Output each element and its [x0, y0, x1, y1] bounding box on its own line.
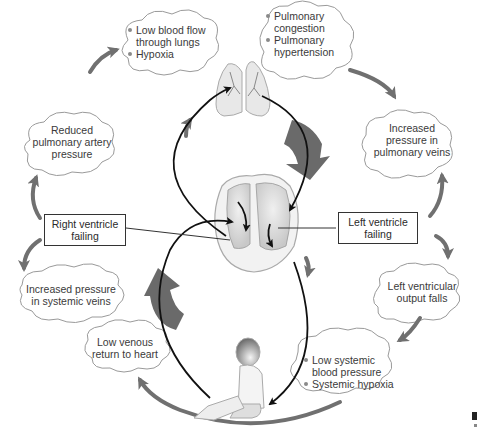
cloud-low-venous-return-text: Low venous return to heart [82, 336, 168, 360]
text-line: Increased pressure [16, 283, 126, 295]
arrow-heart-down [306, 258, 309, 274]
cloud-lungs-low-flow-text: Low blood flowthrough lungs Hypoxia [128, 24, 228, 60]
text-line: output falls [380, 292, 464, 304]
big-arrow-left [144, 268, 184, 330]
arrow-to-reduced-pa [33, 178, 40, 218]
text-line: in systemic veins [16, 295, 126, 307]
arrow-lv-to-output [436, 236, 448, 256]
text-line: pulmonary artery [24, 136, 120, 148]
arrow-lv-to-pv [430, 176, 442, 216]
corner-mark [472, 412, 477, 420]
text-line: Left ventricle [348, 216, 408, 228]
text-line: pressure in [362, 134, 462, 146]
arrow-rv-to-sv [24, 240, 40, 268]
text-line: Increased [362, 122, 462, 134]
cloud-reduced-pa-pressure-text: Reduced pulmonary artery pressure [24, 124, 120, 160]
text-line: Right ventricle [52, 218, 119, 230]
cloud-increased-pv-pressure-text: Increased pressure in pulmonary veins [362, 122, 462, 158]
text-line: failing [348, 228, 408, 240]
text-line: failing [52, 230, 119, 242]
arrow-to-lungs-cloud [90, 50, 116, 72]
child-illustration [194, 338, 264, 420]
arrow-congestion-to-pv [350, 70, 394, 96]
text-line: pulmonary veins [362, 146, 462, 158]
left-ventricle-failing-box: Left ventricle failing [338, 212, 418, 244]
cloud-increased-sv-pressure-text: Increased pressure in systemic veins [16, 283, 126, 307]
text-line: return to heart [82, 348, 168, 360]
cloud-low-systemic-bp-text: Low systemicblood pressure Systemic hypo… [304, 354, 404, 390]
text-line: Left ventricular [380, 280, 464, 292]
text-line: Reduced [24, 124, 120, 136]
lungs-illustration [216, 62, 270, 116]
cloud-pulmonary-congestion-text: Pulmonarycongestion Pulmonaryhypertensio… [266, 10, 356, 58]
right-ventricle-failing-box: Right ventricle failing [44, 214, 126, 246]
text-line: Low venous [82, 336, 168, 348]
text-line: pressure [24, 148, 120, 160]
heart-illustration [215, 174, 298, 272]
cloud-lv-output-falls-text: Left ventricular output falls [380, 280, 464, 304]
